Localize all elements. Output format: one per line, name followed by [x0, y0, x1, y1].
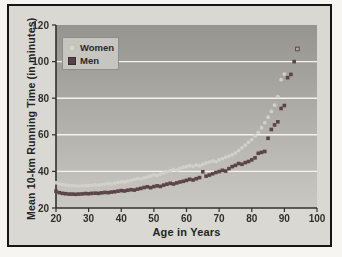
data-point-women: [178, 167, 182, 171]
data-point-men: [162, 183, 166, 187]
data-point-men: [221, 169, 225, 173]
data-point-women: [237, 149, 241, 153]
data-point-women: [103, 182, 107, 186]
data-point-men: [116, 189, 120, 193]
data-point-men: [142, 186, 146, 190]
data-point-men: [198, 176, 202, 180]
data-point-men: [191, 178, 195, 182]
data-point-women: [100, 183, 104, 187]
data-point-women: [247, 140, 251, 144]
data-point-men: [106, 191, 110, 195]
data-point-women: [54, 181, 58, 185]
data-point-men: [243, 161, 247, 165]
data-point-men: [152, 185, 156, 189]
data-point-women: [243, 143, 247, 147]
data-point-men: [64, 192, 68, 196]
data-point-men: [214, 171, 218, 175]
data-point-women: [256, 131, 260, 135]
data-point-men: [133, 188, 137, 192]
data-point-women: [175, 168, 179, 172]
data-point-men: [188, 177, 192, 181]
data-point-women: [90, 183, 94, 187]
data-point-men: [230, 165, 234, 169]
data-point-women: [123, 180, 127, 184]
data-point-men: [136, 187, 140, 191]
data-point-women: [253, 134, 257, 138]
data-point-men: [234, 164, 238, 168]
data-point-women: [116, 180, 120, 184]
data-point-men: [240, 162, 244, 166]
x-axis-title: Age in Years: [56, 226, 317, 238]
data-point-men: [292, 60, 296, 64]
data-point-women: [129, 178, 133, 182]
data-point-women: [224, 155, 228, 159]
data-point-women: [126, 179, 130, 183]
data-point-women: [276, 95, 280, 99]
data-point-women: [142, 176, 146, 180]
data-point-men: [110, 190, 114, 194]
data-point-women: [113, 181, 117, 185]
data-point-men: [97, 192, 101, 196]
data-point-women: [152, 173, 156, 177]
scatter-plot: 203040506070809010020406080100120: [0, 0, 342, 257]
x-tick-label: 100: [309, 213, 326, 224]
data-point-men: [273, 123, 277, 127]
data-point-men: [224, 169, 228, 173]
data-point-men: [237, 162, 241, 166]
data-point-women: [77, 184, 81, 188]
data-point-women: [106, 182, 110, 186]
data-point-men: [168, 181, 172, 185]
x-tick-label: 60: [181, 213, 193, 224]
data-point-men: [155, 184, 159, 188]
data-point-men: [194, 177, 198, 181]
data-point-women: [159, 172, 163, 176]
data-point-women: [80, 184, 84, 188]
data-point-men: [279, 107, 283, 111]
data-point-men: [260, 151, 264, 155]
data-point-women: [162, 171, 166, 175]
data-point-women: [266, 115, 270, 119]
data-point-men: [266, 136, 270, 140]
data-point-women: [67, 184, 71, 188]
data-point-women: [269, 109, 273, 113]
data-point-women: [149, 174, 153, 178]
data-point-women: [240, 146, 244, 150]
legend: Women Men: [62, 37, 119, 70]
data-point-women: [139, 177, 143, 181]
legend-women-label: Women: [80, 43, 114, 53]
x-tick-label: 20: [50, 213, 62, 224]
data-point-men: [126, 188, 130, 192]
data-point-women: [181, 165, 185, 169]
data-point-men: [113, 190, 117, 194]
data-point-men: [283, 104, 287, 108]
data-point-men: [93, 191, 97, 195]
y-tick-label: 120: [32, 20, 49, 31]
x-tick-label: 50: [148, 213, 160, 224]
data-point-men: [276, 120, 280, 124]
data-point-women: [155, 174, 159, 178]
data-point-women: [64, 183, 68, 187]
data-point-men: [77, 192, 81, 196]
data-point-men: [159, 185, 163, 189]
men-marker-icon: [68, 57, 76, 65]
data-point-women: [211, 159, 215, 163]
y-tick-label: 100: [32, 56, 49, 67]
page: { "figure": { "x_axis_label": "Age in Ye…: [0, 0, 342, 257]
data-point-men: [103, 191, 107, 195]
data-point-men: [165, 182, 169, 186]
data-point-women: [214, 160, 218, 164]
data-point-women: [204, 161, 208, 165]
data-point-men: [263, 150, 267, 154]
data-point-women: [165, 170, 169, 174]
data-point-women: [168, 169, 172, 173]
data-point-women: [191, 164, 195, 168]
data-point-men: [178, 180, 182, 184]
y-tick-label: 60: [38, 129, 50, 140]
data-point-men: [84, 192, 88, 196]
data-point-men: [67, 192, 71, 196]
data-point-women: [132, 178, 136, 182]
data-point-men: [247, 160, 251, 164]
data-point-men: [270, 128, 274, 132]
data-point-women: [145, 175, 149, 179]
data-point-men: [123, 189, 127, 193]
